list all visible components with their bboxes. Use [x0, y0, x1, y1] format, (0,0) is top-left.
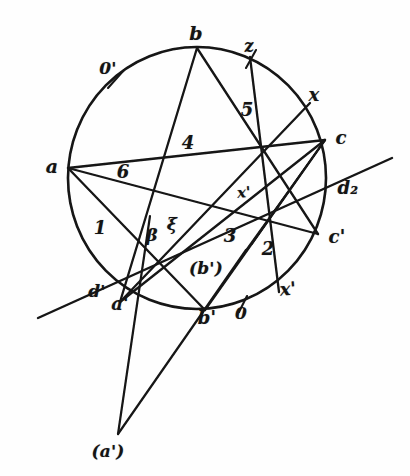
point-label-apex-a-prime: (a') — [91, 443, 124, 460]
point-label-zero-prime: 0' — [99, 60, 116, 77]
point-label-z-top: z — [243, 37, 255, 55]
point-label-xi: ξ — [167, 216, 177, 233]
point-label-d-prime: d' — [88, 283, 106, 300]
point-label-c: c — [335, 129, 346, 147]
region-label-5: 5 — [241, 101, 254, 119]
point-label-x-right: x — [309, 86, 320, 104]
point-label-a: a — [46, 157, 59, 176]
region-label-4: 4 — [182, 134, 195, 152]
geometric-figure: b a c c' a' b' d₂ d' z x x' 0' 0 (a') (b… — [0, 0, 410, 476]
point-label-zero: 0 — [235, 305, 247, 322]
region-label-6: 6 — [117, 163, 130, 181]
point-label-b: b — [189, 24, 203, 43]
figure-canvas — [0, 0, 410, 476]
point-label-c-prime: c' — [329, 228, 346, 246]
region-label-1: 1 — [94, 219, 107, 237]
point-label-x-prime-bottom: x' — [279, 279, 297, 298]
point-label-a-prime: a' — [111, 295, 129, 313]
point-label-x-prime-inner: x' — [236, 185, 251, 201]
region-label-2: 2 — [262, 240, 275, 258]
point-label-d2: d₂ — [338, 179, 359, 197]
point-label-b-prime-paren: (b') — [189, 260, 223, 277]
point-label-b-prime: b' — [198, 309, 217, 327]
chord-a-c — [68, 140, 325, 168]
apex-ray-right — [118, 250, 246, 434]
apex-ray-left — [118, 216, 150, 434]
region-label-3: 3 — [224, 227, 237, 245]
point-label-beta: β — [146, 227, 158, 244]
